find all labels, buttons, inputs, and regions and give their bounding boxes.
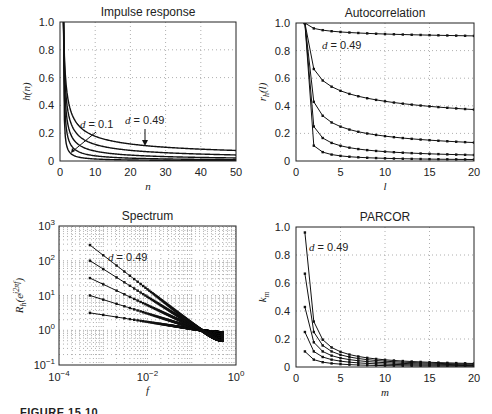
- x-axis-label: n: [145, 180, 151, 192]
- y-axis-label: km: [256, 291, 271, 302]
- svg-text:0.4: 0.4: [275, 100, 290, 112]
- figure: Impulse response0102030405000.20.40.60.8…: [0, 0, 492, 414]
- svg-text:10−4: 10−4: [48, 369, 70, 383]
- svg-text:0.2: 0.2: [39, 127, 54, 139]
- svg-text:1.0: 1.0: [275, 221, 290, 233]
- svg-text:10−1: 10−1: [34, 357, 56, 371]
- autocorrelation-chart: Autocorrelation0510152000.20.40.60.81.0l…: [256, 6, 480, 192]
- svg-text:0.4: 0.4: [39, 99, 54, 111]
- x-axis-label: m: [381, 386, 389, 398]
- svg-text:0: 0: [48, 155, 54, 167]
- chart-title: Autocorrelation: [345, 6, 426, 20]
- annotations: d = 0.49: [309, 241, 348, 253]
- spectrum-chart: Spectrum10−410−210010−1100101102103fRh(e…: [12, 209, 245, 396]
- svg-text:0.4: 0.4: [275, 305, 290, 317]
- svg-text:10−2: 10−2: [137, 369, 159, 383]
- svg-text:0: 0: [293, 372, 299, 384]
- svg-text:0.6: 0.6: [39, 72, 54, 84]
- svg-text:40: 40: [195, 166, 207, 178]
- svg-text:0.8: 0.8: [39, 44, 54, 56]
- x-axis-label: f: [146, 384, 151, 396]
- y-axis-label: h(n): [20, 82, 33, 101]
- svg-text:0: 0: [284, 155, 290, 167]
- chart-title: PARCOR: [360, 210, 411, 224]
- svg-text:20: 20: [468, 166, 480, 178]
- annotations: d = 0.49: [108, 251, 147, 263]
- svg-text:102: 102: [38, 253, 55, 267]
- parcor-chart: PARCOR0510152000.20.40.60.81.0mkmd = 0.4…: [256, 210, 480, 398]
- svg-text:20: 20: [124, 166, 136, 178]
- svg-text:0: 0: [293, 166, 299, 178]
- svg-text:0: 0: [284, 361, 290, 373]
- figure-caption: FIGURE 15.10: [20, 406, 98, 414]
- svg-text:10: 10: [89, 166, 101, 178]
- svg-text:d = 0.49: d = 0.49: [322, 39, 361, 51]
- annotations: d = 0.49: [322, 39, 361, 51]
- svg-text:0.6: 0.6: [275, 277, 290, 289]
- svg-text:5: 5: [337, 166, 343, 178]
- svg-text:0.2: 0.2: [275, 333, 290, 345]
- svg-text:1.0: 1.0: [39, 16, 54, 28]
- y-axis-label: rh(l): [256, 82, 271, 101]
- svg-text:100: 100: [228, 369, 245, 383]
- svg-text:d = 0.49: d = 0.49: [108, 251, 147, 263]
- svg-text:0: 0: [57, 166, 63, 178]
- svg-text:1.0: 1.0: [275, 17, 290, 29]
- svg-text:d = 0.49: d = 0.49: [309, 241, 348, 253]
- svg-text:0.6: 0.6: [275, 72, 290, 84]
- svg-text:0.2: 0.2: [275, 127, 290, 139]
- svg-text:10: 10: [379, 166, 391, 178]
- x-axis-label: l: [383, 180, 386, 192]
- svg-text:101: 101: [38, 288, 55, 302]
- chart-title: Spectrum: [122, 209, 173, 223]
- svg-text:15: 15: [423, 166, 435, 178]
- y-axis-label: Rh(ej2πf): [12, 277, 28, 314]
- svg-text:50: 50: [230, 166, 242, 178]
- svg-text:d = 0.49: d = 0.49: [125, 114, 164, 126]
- svg-text:0.8: 0.8: [275, 45, 290, 57]
- impulse-response-chart: Impulse response0102030405000.20.40.60.8…: [20, 5, 242, 192]
- svg-text:15: 15: [423, 372, 435, 384]
- svg-text:d = 0.1: d = 0.1: [80, 118, 113, 130]
- svg-text:100: 100: [38, 322, 55, 336]
- svg-text:5: 5: [337, 372, 343, 384]
- svg-text:103: 103: [38, 218, 55, 232]
- chart-title: Impulse response: [101, 5, 196, 19]
- svg-text:10: 10: [379, 372, 391, 384]
- svg-text:30: 30: [159, 166, 171, 178]
- svg-text:20: 20: [468, 372, 480, 384]
- svg-text:0.8: 0.8: [275, 249, 290, 261]
